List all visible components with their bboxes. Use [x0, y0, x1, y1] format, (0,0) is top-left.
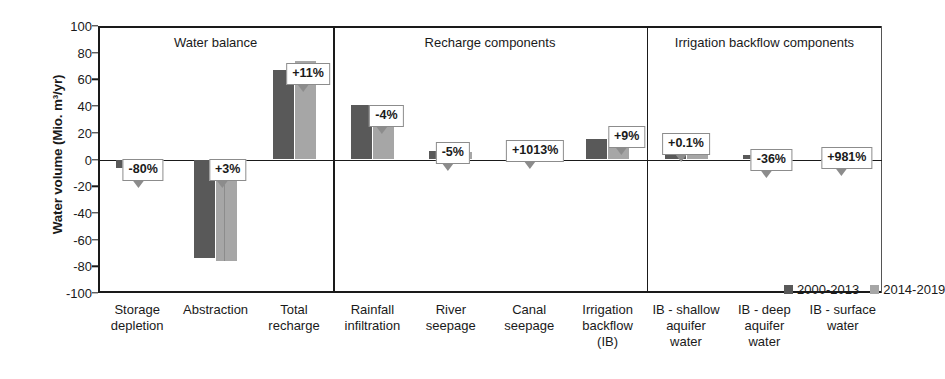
- legend-entry: 2014-2019: [870, 282, 945, 297]
- bar: [586, 139, 607, 159]
- y-tick-label: -60: [52, 233, 92, 246]
- callout-tail: [218, 180, 228, 187]
- legend-label: 2000-2013: [797, 282, 859, 297]
- callout-tail: [676, 154, 686, 161]
- percent-change-callout: -36%: [751, 149, 792, 171]
- y-tick-label: 40: [52, 100, 92, 113]
- chart-legend: 2000-20132014-2019: [784, 282, 945, 297]
- callout-tail: [376, 126, 386, 133]
- percent-change-callout: +1013%: [506, 140, 564, 162]
- y-tick-label: 80: [52, 46, 92, 59]
- percent-change-callout: -4%: [369, 105, 403, 127]
- legend-label: 2014-2019: [883, 282, 945, 297]
- legend-swatch: [870, 285, 879, 294]
- callout-tail: [525, 161, 535, 168]
- y-tick-mark: [92, 25, 98, 26]
- percent-change-callout: +11%: [286, 63, 330, 85]
- y-tick-mark: [92, 212, 98, 213]
- y-tick-label: -80: [52, 260, 92, 273]
- y-tick-label: 20: [52, 126, 92, 139]
- percent-change-callout: -80%: [123, 159, 164, 181]
- x-tick-label: IB - surface water: [788, 302, 898, 334]
- y-tick-label: 100: [52, 20, 92, 33]
- callout-tail: [298, 84, 308, 91]
- percent-change-callout: +3%: [209, 159, 246, 181]
- y-tick-label: -100: [52, 287, 92, 300]
- legend-swatch: [784, 285, 793, 294]
- y-tick-label: -20: [52, 180, 92, 193]
- panel-title: Water balance: [174, 35, 257, 50]
- y-tick-mark: [92, 239, 98, 240]
- y-tick-mark: [92, 132, 98, 133]
- plot-area: 100806040200-20-40-60-80-100 Water balan…: [98, 26, 882, 293]
- callout-tail: [133, 180, 143, 187]
- y-tick-mark: [92, 159, 98, 160]
- percent-change-callout: +0.1%: [662, 133, 710, 155]
- callout-tail: [837, 168, 847, 175]
- y-tick-mark: [92, 292, 98, 293]
- panel-divider: [333, 26, 335, 293]
- callout-tail: [617, 147, 627, 154]
- percent-change-callout: -5%: [436, 142, 470, 164]
- callout-leader-line: [224, 183, 225, 261]
- panel-divider: [647, 26, 649, 293]
- panel-title: Recharge components: [425, 35, 556, 50]
- callout-tail: [761, 170, 771, 177]
- axis-top: [98, 26, 882, 28]
- callout-tail: [443, 163, 453, 170]
- percent-change-callout: +981%: [821, 147, 872, 169]
- y-tick-label: 60: [52, 73, 92, 86]
- y-tick-mark: [92, 79, 98, 80]
- axis-bottom: [98, 291, 882, 293]
- y-tick-label: -40: [52, 206, 92, 219]
- panel-title: Irrigation backflow components: [675, 35, 854, 50]
- y-tick-label: 0: [52, 153, 92, 166]
- legend-entry: 2000-2013: [784, 282, 859, 297]
- y-tick-mark: [92, 52, 98, 53]
- y-tick-mark: [92, 185, 98, 186]
- y-tick-mark: [92, 266, 98, 267]
- y-tick-mark: [92, 105, 98, 106]
- percent-change-callout: +9%: [608, 126, 645, 148]
